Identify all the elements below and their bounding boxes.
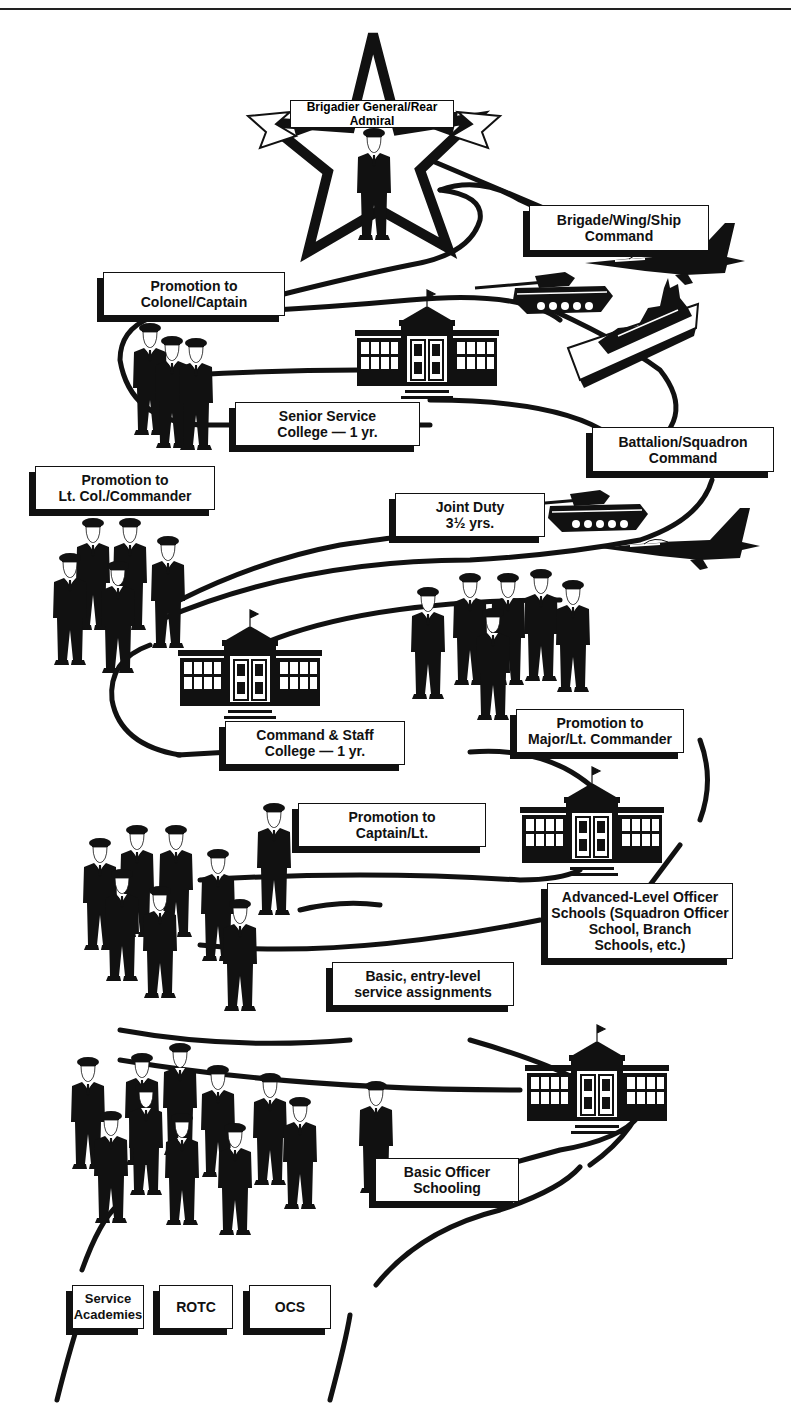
school-building-icon bbox=[525, 1025, 669, 1134]
label-service-academies: Service Academies bbox=[72, 1285, 144, 1329]
school-building-icon bbox=[355, 290, 499, 399]
label-promotion-colonel: Promotion to Colonel/Captain bbox=[103, 272, 285, 316]
label-joint-duty: Joint Duty 3½ yrs. bbox=[395, 493, 545, 537]
label-ocs: OCS bbox=[249, 1285, 331, 1329]
label-command-staff-college: Command & Staff College — 1 yr. bbox=[225, 721, 405, 765]
officer-group-major bbox=[411, 569, 590, 720]
officer-group-ltcol bbox=[53, 518, 185, 673]
tank-icon bbox=[475, 272, 613, 314]
label-senior-service-college: Senior Service College — 1 yr. bbox=[235, 402, 420, 446]
label-brigade-command: Brigade/Wing/Ship Command bbox=[529, 205, 709, 251]
label-promotion-major: Promotion to Major/Lt. Commander bbox=[516, 709, 684, 753]
officer-group-entry bbox=[71, 1043, 393, 1235]
label-basic-assignments: Basic, entry-level service assignments bbox=[332, 962, 514, 1006]
label-advanced-schools: Advanced-Level Officer Schools (Squadron… bbox=[547, 883, 733, 959]
school-building-icon bbox=[178, 610, 322, 719]
officer-group-colonel bbox=[133, 323, 213, 450]
label-rotc: ROTC bbox=[159, 1285, 233, 1329]
top-rank-banner: Brigadier General/Rear Admiral bbox=[290, 100, 454, 128]
label-basic-schooling: Basic Officer Schooling bbox=[375, 1158, 519, 1202]
label-promotion-ltcol: Promotion to Lt. Col./Commander bbox=[35, 466, 215, 510]
school-building-icon bbox=[520, 767, 664, 876]
label-battalion-command: Battalion/Squadron Command bbox=[592, 427, 774, 472]
label-promotion-captain: Promotion to Captain/Lt. bbox=[298, 803, 486, 847]
top-rank-label: Brigadier General/Rear Admiral bbox=[291, 100, 453, 128]
officer-group-captain bbox=[83, 803, 291, 1011]
